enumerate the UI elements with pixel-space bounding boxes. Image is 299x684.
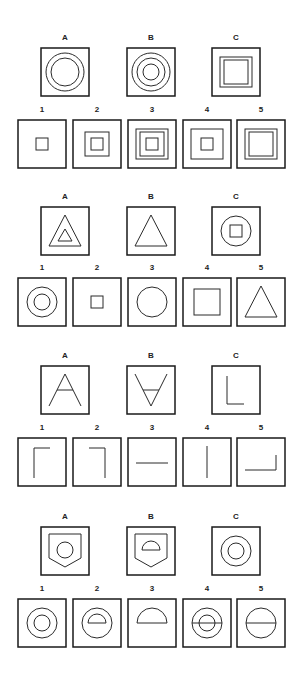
square-large-icon (245, 129, 277, 159)
square-tiny-icon (201, 138, 213, 150)
shield-icon (49, 534, 81, 567)
circle-large-icon (132, 53, 170, 91)
option-frame[interactable] (128, 438, 176, 486)
option-label: 5 (259, 105, 264, 114)
stimulus-B: B (127, 192, 175, 255)
circle-large-icon (46, 53, 84, 91)
square-large-icon (136, 129, 168, 159)
option-5: 5 (237, 423, 285, 486)
option-figure (245, 286, 277, 317)
option-4: 4 (183, 105, 231, 168)
option-frame[interactable] (128, 120, 176, 168)
option-frame[interactable] (183, 120, 231, 168)
letter-L-icon (227, 376, 244, 404)
stimulus-C: C (212, 512, 260, 575)
stimulus-figure (135, 215, 167, 246)
stimulus-frame (212, 527, 260, 575)
stimulus-figure (49, 534, 81, 567)
option-3: 3 (128, 423, 176, 486)
stimulus-A: A (41, 351, 89, 414)
stimulus-figure (46, 53, 84, 91)
option-1: 1 (18, 105, 66, 168)
stimulus-figure (132, 53, 170, 91)
option-label: 2 (95, 105, 100, 114)
option-label: 3 (150, 105, 155, 114)
triangle-large-icon (135, 215, 167, 246)
option-frame[interactable] (18, 120, 66, 168)
option-frame[interactable] (73, 278, 121, 326)
option-figure (137, 608, 167, 623)
option-1: 1 (18, 584, 66, 647)
option-figure (194, 289, 220, 315)
stimulus-figure (221, 536, 251, 566)
stimulus-label: A (62, 33, 68, 42)
stimulus-C: C (212, 33, 260, 96)
stimulus-label: C (233, 351, 239, 360)
square-medium-big-icon (194, 289, 220, 315)
stimulus-figure (135, 534, 167, 567)
option-figure (34, 448, 50, 478)
option-label: 4 (205, 263, 210, 272)
option-frame[interactable] (73, 120, 121, 168)
option-4: 4 (183, 584, 231, 647)
option-figure (27, 287, 57, 317)
stimulus-label: A (62, 351, 68, 360)
option-frame[interactable] (18, 599, 66, 647)
option-frame[interactable] (237, 120, 285, 168)
stimulus-figure (49, 374, 81, 406)
analogy-puzzle-sheet: ABC12345ABC12345ABC12345ABC12345 (0, 0, 299, 684)
square-tiny-icon (146, 138, 158, 150)
option-figure (192, 608, 222, 638)
circle-medium-big-icon (27, 608, 57, 638)
triangle-large-icon (245, 286, 277, 317)
triangle-small-icon (58, 229, 72, 241)
circle-medium-big-icon (221, 536, 251, 566)
option-3: 3 (128, 584, 176, 647)
square-tiny-icon (91, 138, 103, 150)
option-figure (27, 608, 57, 638)
circle-small-icon (34, 294, 50, 310)
stimulus-label: B (148, 33, 154, 42)
option-figure (85, 132, 109, 156)
option-3: 3 (128, 263, 176, 326)
option-frame[interactable] (18, 438, 66, 486)
option-frame[interactable] (73, 438, 121, 486)
option-frame[interactable] (18, 278, 66, 326)
option-label: 2 (95, 263, 100, 272)
circle-medium-big-icon (27, 287, 57, 317)
square-tiny-icon (230, 225, 242, 237)
option-figure (91, 296, 103, 308)
option-2: 2 (73, 263, 121, 326)
option-label: 2 (95, 584, 100, 593)
option-frame[interactable] (183, 278, 231, 326)
option-frame[interactable] (128, 278, 176, 326)
stimulus-label: A (62, 192, 68, 201)
stimulus-label: B (148, 192, 154, 201)
square-tiny-icon (91, 296, 103, 308)
circle-small-icon (34, 615, 50, 631)
problems-root: ABC12345ABC12345ABC12345ABC12345 (18, 33, 285, 647)
square-tiny-icon (36, 138, 48, 150)
stimulus-frame (41, 48, 89, 96)
option-figure (36, 138, 48, 150)
stimulus-C: C (212, 351, 260, 414)
option-frame[interactable] (237, 438, 285, 486)
problem-3: ABC12345 (18, 351, 285, 486)
option-5: 5 (237, 584, 285, 647)
circle-small-icon (228, 543, 244, 559)
stimulus-A: A (41, 33, 89, 96)
circle-small-shield-icon (57, 542, 73, 558)
stimulus-frame (212, 48, 260, 96)
semicircle-large-icon (137, 608, 167, 623)
option-label: 3 (150, 584, 155, 593)
option-figure (246, 608, 276, 638)
option-label: 4 (205, 584, 210, 593)
circle-medium-icon (51, 58, 79, 86)
option-label: 2 (95, 423, 100, 432)
stimulus-frame (212, 366, 260, 414)
stimulus-figure (227, 376, 244, 404)
option-figure (137, 287, 167, 317)
option-1: 1 (18, 263, 66, 326)
corner-top-left-icon (34, 448, 50, 478)
option-1: 1 (18, 423, 66, 486)
